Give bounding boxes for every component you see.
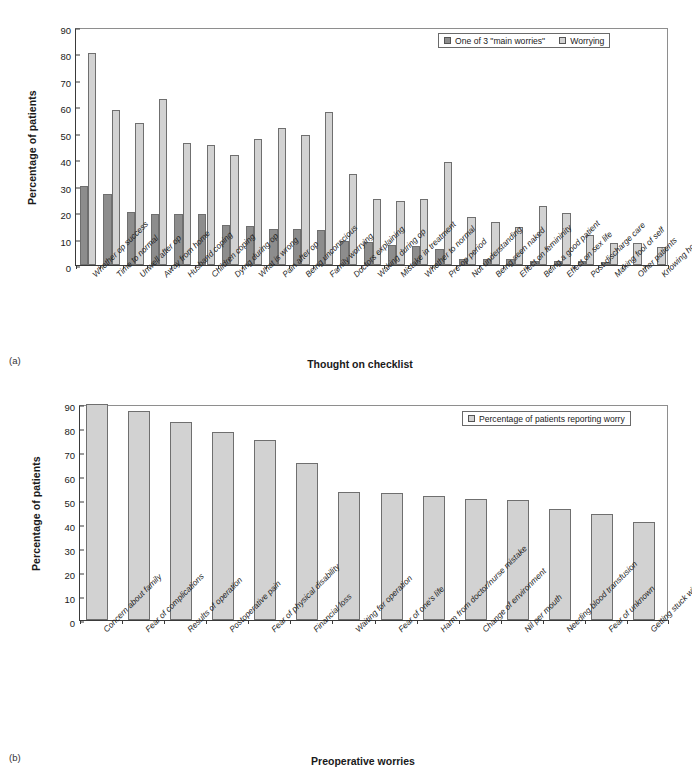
x-axis-tick-label: Harm from doctor/nurse mistake [438,627,445,634]
y-axis-tick: 40 [60,152,76,170]
y-axis-tick: 0 [66,258,76,276]
y-axis-tick: 10 [64,589,80,607]
y-axis-tick-label: 0 [66,263,76,274]
x-axis-tick-mark [100,265,101,269]
y-axis-tick-mark [76,108,80,109]
x-axis-tick-mark [164,620,165,624]
x-axis-tick-mark [195,265,196,269]
y-axis-tick-mark [80,430,84,431]
x-axis-tick-label: Financial loss [311,627,318,634]
x-axis-tick-mark [313,265,314,269]
y-axis-tick-mark [76,134,80,135]
x-axis-tick-mark [206,620,207,624]
y-axis-tick-mark [76,55,80,56]
x-axis-tick-mark [479,265,480,269]
x-axis-tick-mark [627,620,628,624]
x-axis-tick-mark [456,265,457,269]
y-axis-tick: 30 [60,179,76,197]
y-axis-tick: 70 [60,73,76,91]
y-axis-tick-label: 30 [64,546,80,557]
legend-entry: One of 3 "main worries" [444,36,545,46]
x-axis-tick-mark [248,620,249,624]
x-axis-tick-mark [242,265,243,269]
x-axis-tick-label: Pre-op period [446,272,453,279]
y-axis-tick: 80 [60,46,76,64]
y-axis-tick-mark [80,598,84,599]
x-axis-tick-mark [375,620,376,624]
x-axis-tick-mark [585,620,586,624]
y-axis-title-b: Percentage of patients [30,456,42,571]
y-axis-tick-mark [76,240,80,241]
x-axis-tick-label: What is wrong [256,272,263,279]
bar [159,99,167,265]
panel-tag-a: (a) [9,355,21,366]
x-axis-tick-label: Children coping [209,272,216,279]
y-axis-tick-mark [76,214,80,215]
plot-area-b: 0102030405060708090Concern about familyF… [79,405,668,621]
y-axis-tick: 0 [70,613,80,631]
bar [86,404,108,620]
x-axis-tick-label: Being unconscious [303,272,310,279]
y-axis-tick-mark [80,478,84,479]
legend-swatch-icon [468,415,475,422]
y-axis-tick: 90 [64,397,80,415]
x-axis-tick-label: Doctors explaining [351,272,358,279]
x-axis-tick-label: Being a good patient [541,272,548,279]
y-axis-tick-mark [80,550,84,551]
x-axis-tick-mark [501,620,502,624]
y-axis-tick: 10 [60,232,76,250]
y-axis-tick: 50 [60,126,76,144]
x-axis-tick-mark [598,265,599,269]
y-axis-title-a: Percentage of patients [26,90,38,205]
x-axis-tick-label: Making fool of self [612,272,619,279]
x-axis-tick-label: Results of operation [185,627,192,634]
x-axis-tick-mark [332,620,333,624]
x-axis-tick-mark [550,265,551,269]
x-axis-title-a: Thought on checklist [260,358,460,370]
y-axis-tick-label: 0 [70,618,80,629]
x-axis-tick-label: Whether to normal [422,272,429,279]
y-axis-tick-label: 20 [60,210,76,221]
x-axis-tick-mark [668,620,669,624]
x-axis-tick-label: Away from home [161,272,168,279]
y-axis-tick-label: 60 [60,104,76,115]
x-axis-tick-label: Fear of physical disability [269,627,276,634]
bars-layer-b [80,406,667,620]
y-axis-tick-mark [80,574,84,575]
y-axis-tick: 20 [64,565,80,583]
x-axis-tick-label: Fear of one's life [396,627,403,634]
x-axis-tick-label: Being seen naked [493,272,500,279]
x-axis-tick-label: Post-discharge care [588,272,595,279]
legend-swatch-icon [444,37,451,44]
x-axis-tick-label: Getting stuck with needle [648,627,655,634]
x-axis-tick-label: Other patients [635,272,642,279]
legend-entry: Worrying [559,36,604,46]
y-axis-tick-label: 80 [64,426,80,437]
x-axis-tick-mark [147,265,148,269]
x-axis-tick-mark [408,265,409,269]
y-axis-tick-label: 70 [60,78,76,89]
x-axis-tick-label: Concern about family [101,627,108,634]
figure-a: Percentage of patients 01020304050607080… [0,0,692,380]
x-axis-tick-mark [361,265,362,269]
x-axis-tick-mark [574,265,575,269]
x-axis-tick-label: Needing blood transfusion [564,627,571,634]
x-axis-tick-mark [218,265,219,269]
x-axis-tick-label: Nil per mouth [522,627,529,634]
y-axis-tick-label: 90 [64,402,80,413]
x-axis-tick-mark [645,265,646,269]
x-axis-tick-mark [503,265,504,269]
x-axis-tick-label: Change of environment [480,627,487,634]
y-axis-tick: 90 [60,20,76,38]
y-axis-tick-mark [80,526,84,527]
x-axis-tick-label: Effect on sex life [564,272,571,279]
x-axis-tick-label: Husband coping [185,272,192,279]
x-axis-tick-label: Mistake in treatment [398,272,405,279]
bars-layer-a [76,29,667,265]
legend-label: One of 3 "main worries" [455,36,545,46]
y-axis-tick-label: 10 [60,237,76,248]
x-axis-tick-mark [290,620,291,624]
x-axis-tick-label: Effect on femininity [517,272,524,279]
y-axis-tick-label: 20 [64,570,80,581]
x-axis-tick-mark [384,265,385,269]
